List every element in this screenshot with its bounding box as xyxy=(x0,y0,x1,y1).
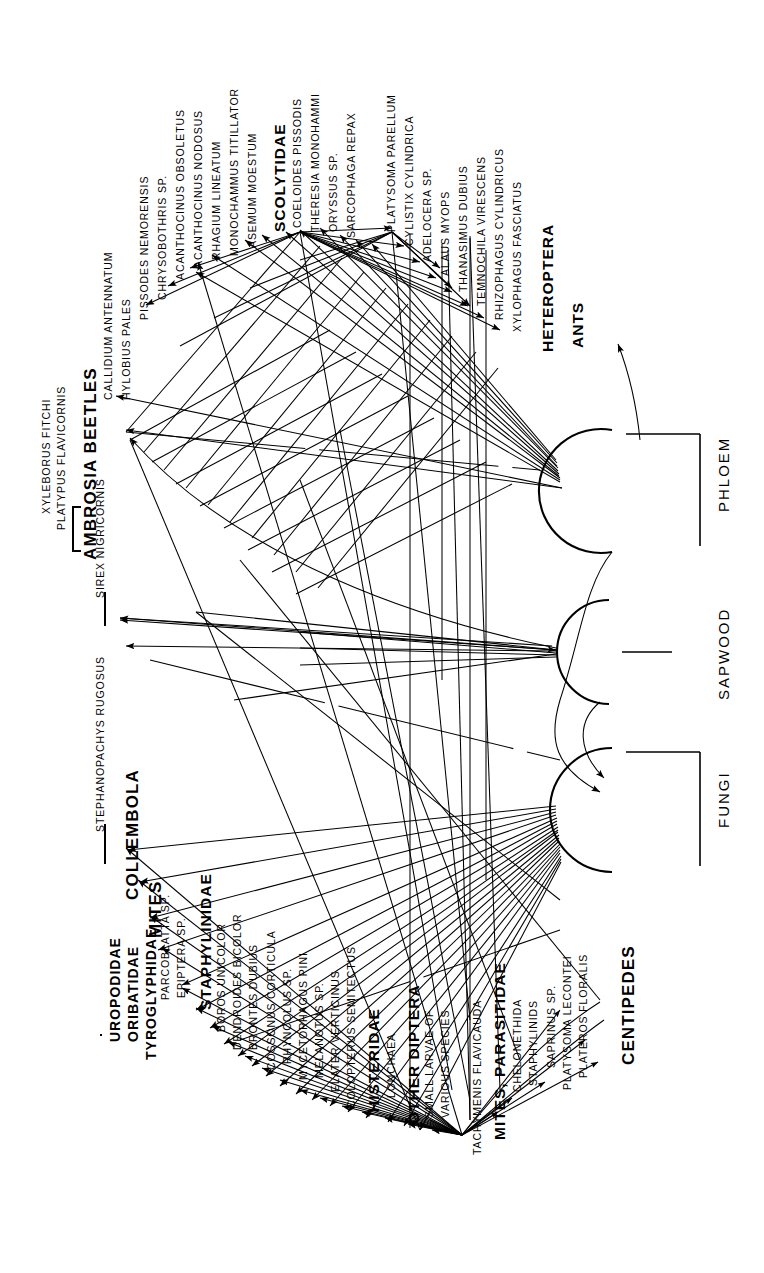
stephanopachys-tick xyxy=(104,824,106,864)
label-sirex-nigricornis: SIREX NIGRICORNIS xyxy=(95,478,106,598)
label-rhizophagus-cylindricus: RHIZOPHAGUS CYLINDRICUS xyxy=(494,148,505,320)
label-heteroptera: HETEROPTERA xyxy=(540,224,556,352)
label-centipedes: CENTIPEDES xyxy=(620,945,637,1065)
ambrosia-brace-top xyxy=(72,506,81,508)
label-small-larvae-of: SMALL LARVAE OF xyxy=(424,1010,435,1118)
label-scolytidae: SCOLYTIDAE xyxy=(272,124,288,232)
label-ants: ANTS xyxy=(570,302,586,348)
label-xylophagus-fasciatus: XYLOPHAGUS FASCIATUS xyxy=(512,181,523,332)
collembola-brace xyxy=(100,1034,102,1036)
node-label-sapwood: SAPWOOD xyxy=(716,608,731,700)
label-stephanopachys-rugosus: STEPHANOPACHYS RUGOSUS xyxy=(95,656,106,832)
ambrosia-brace xyxy=(72,506,74,552)
label-dendroides-bicolor: DENDROIDES BICOLOR xyxy=(232,914,243,1050)
label-chelonethida: CHELONETHIDA xyxy=(512,999,523,1092)
label-tyroglyphidae: TYROGLYPHIDAE xyxy=(144,928,158,1060)
label-temnochila-virescens: TEMNOCHILA VIRESCENS xyxy=(476,156,487,306)
label-sarcophaga-repax: SARCOPHAGA REPAX xyxy=(346,112,357,238)
label-theresia-monohammi: THERESIA MONOHAMMI xyxy=(310,93,321,232)
label-pissodes-nemorensis: PISSODES NEMORENSIS xyxy=(139,176,150,320)
label-callidium-antennatum: CALLIDIUM ANTENNATUM xyxy=(103,252,114,401)
label-saprinus-sp: SAPRINUS SP. xyxy=(546,985,557,1068)
label-hylobius-pales: HYLOBIUS PALES xyxy=(121,298,132,400)
label-thanasimus-dubius: THANASIMUS DUBIUS xyxy=(458,165,469,292)
label-staphylinidae: STAPHYLINIDAE xyxy=(198,873,214,1010)
label-mycetophagus-pini: MYCETOPHAGUS PINI xyxy=(298,952,309,1080)
label-collembola: COLLEMBOLA xyxy=(124,769,141,900)
label-melanotus-sp: MELANOTUS SP. xyxy=(314,982,325,1078)
label-staphylinids: STAPHYLINIDS xyxy=(528,1000,539,1086)
label-various-species: VARIOUS SPECIES xyxy=(440,1010,451,1118)
label-rhagium-lineatum: RHAGIUM LINEATUM xyxy=(211,141,222,260)
label-acanthocinus-obsoletus: ACANTHOCINUS OBSOLETUS xyxy=(175,109,186,280)
label-tachymenis-flavicauda: TACHYMENIS FLAVICAUDA xyxy=(472,1000,483,1155)
label-coeloides-pissodis: COELOIDES PISSODIS xyxy=(292,98,303,228)
label-platysoma-parellum: PLATYSOMA PARELLUM xyxy=(386,94,397,232)
label-lonchaea: LONCHAEA xyxy=(386,1033,397,1098)
sirex-tick xyxy=(104,592,106,626)
node-label-fungi: FUNGI xyxy=(716,771,731,828)
label-xyleborus-fitchi: XYLEBORUS FITCHI xyxy=(41,399,52,514)
label-epiptera-sp: EPIPTERA SP. xyxy=(176,917,187,998)
label-histeridae: HISTERIDAE xyxy=(366,1008,382,1112)
label-oribatidae: ORIBATIDAE xyxy=(126,946,140,1042)
label-colopterus-semitectus: COLOPTERUS SEMITECTUS xyxy=(346,946,357,1108)
food-web-linework xyxy=(0,0,764,1273)
label-oryssus-sp: ORYSSUS SP. xyxy=(328,152,339,232)
label-alaus-myops: ALAUS MYOPS xyxy=(440,191,451,276)
label-brontes-dubius: BRONTES DUBIUS xyxy=(248,944,259,1050)
label-boros-unicolor: BOROS UNICOLOR xyxy=(216,923,227,1032)
label-elater-verticinus: ELATER VERTICINUS xyxy=(330,970,341,1092)
label-platypus-flavicornis: PLATYPUS FLAVICORNIS xyxy=(56,386,67,530)
label-parcoblatta-sp: PARCOBLATTA SP. xyxy=(160,894,171,1000)
label-rhyncolus-sp: RHYNCOLUS SP. xyxy=(282,968,293,1064)
label-other-diptera: OTHER DIPTERA xyxy=(406,984,422,1124)
label-monochammus-titillator: MONOCHAMMUS TITILLATOR xyxy=(229,88,240,256)
node-label-phloem: PHLOEM xyxy=(716,437,731,512)
label-uropodidae: UROPODIDAE xyxy=(108,937,122,1042)
label-cossonus-corticula: COSSONUS CORTICULA xyxy=(266,930,277,1070)
ambrosia-brace-bottom xyxy=(72,550,81,552)
diagram-canvas: CALLIDIUM ANTENNATUM HYLOBIUS PALES PISS… xyxy=(0,0,764,1273)
label-plateros-floralis: PLATEROS FLORALIS xyxy=(578,954,589,1078)
label-asemum-moestum: ASEMUM MOESTUM xyxy=(247,133,258,248)
label-adelocera-sp: ADELOCERA SP. xyxy=(422,168,433,262)
label-chrysobothris-sp: CHRYSOBOTHRIS SP. xyxy=(157,175,168,300)
label-cylistix-cylindrica: CYLISTIX CYLINDRICA xyxy=(404,116,415,246)
label-platysoma-lecontei: PLATYSOMA LECONTEI xyxy=(562,956,573,1090)
label-acanthocinus-nodosus: ACANTHOCINUS NODOSUS xyxy=(193,110,204,268)
label-mites-parasitidae: MITES, PARASITIDAE xyxy=(492,962,508,1140)
